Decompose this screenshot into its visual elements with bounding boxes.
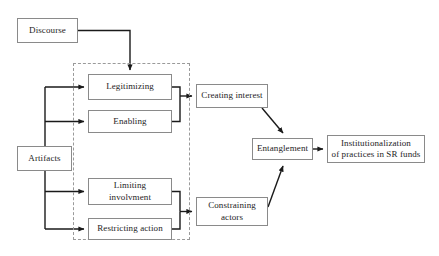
node-legitimizing-label: Legitimizing	[106, 81, 154, 92]
node-creating-interest-label: Creating interest	[201, 90, 262, 101]
node-entanglement-label: Entanglement	[257, 143, 308, 154]
node-creating-interest[interactable]: Creating interest	[196, 84, 268, 108]
node-enabling[interactable]: Enabling	[88, 110, 172, 133]
node-discourse[interactable]: Discourse	[17, 18, 78, 43]
node-legitimizing[interactable]: Legitimizing	[88, 74, 172, 100]
node-limiting-involvment-label: Limiting involvment	[109, 180, 151, 203]
node-artifacts[interactable]: Artifacts	[17, 146, 72, 171]
node-entanglement[interactable]: Entanglement	[252, 138, 313, 160]
connector-creating-interest-to-entanglement	[262, 108, 283, 133]
node-artifacts-label: Artifacts	[28, 153, 60, 164]
connector-constraining-actors-to-entanglement	[268, 166, 283, 207]
diagram-canvas: Discourse Artifacts Legitimizing Enablin…	[0, 0, 439, 256]
node-institutionalization-label: Institutionalization of practices in SR …	[332, 138, 421, 161]
node-enabling-label: Enabling	[113, 116, 146, 127]
node-restricting-action[interactable]: Restricting action	[88, 218, 172, 240]
node-limiting-involvment[interactable]: Limiting involvment	[88, 178, 172, 205]
node-discourse-label: Discourse	[29, 25, 66, 36]
node-institutionalization[interactable]: Institutionalization of practices in SR …	[327, 135, 425, 163]
node-constraining-actors-label: Constraining actors	[208, 200, 256, 223]
node-constraining-actors[interactable]: Constraining actors	[196, 197, 268, 226]
node-restricting-action-label: Restricting action	[97, 223, 163, 234]
